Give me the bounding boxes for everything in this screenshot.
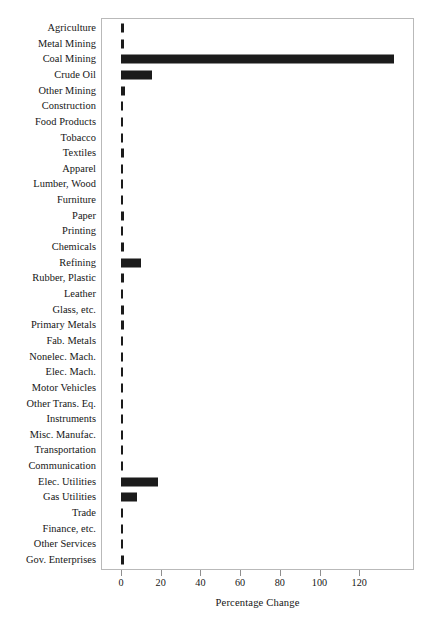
x-axis-tick-label: 0 <box>118 577 123 588</box>
category-label: Gas Utilities <box>0 492 96 502</box>
bar <box>121 383 123 392</box>
percentage-change-bar-chart: AgricultureMetal MiningCoal MiningCrude … <box>0 0 426 629</box>
category-label: Metal Mining <box>0 38 96 48</box>
bar <box>121 321 124 330</box>
bar <box>121 290 123 299</box>
bar <box>121 462 123 471</box>
bar <box>121 55 394 64</box>
x-axis-tick-label: 20 <box>156 577 166 588</box>
x-axis-tick <box>320 570 321 576</box>
category-label: Coal Mining <box>0 54 96 64</box>
category-label: Crude Oil <box>0 70 96 80</box>
category-label: Paper <box>0 211 96 221</box>
bar <box>121 196 123 205</box>
category-label: Gov. Enterprises <box>0 555 96 565</box>
category-label: Other Trans. Eq. <box>0 398 96 408</box>
x-axis-tick <box>121 570 122 576</box>
bar <box>121 336 123 345</box>
bar <box>121 180 123 189</box>
x-axis-tick <box>359 570 360 576</box>
category-label: Agriculture <box>0 23 96 33</box>
x-axis-tick <box>280 570 281 576</box>
bar <box>121 117 123 126</box>
x-axis-tick-label: 100 <box>312 577 327 588</box>
category-axis: AgricultureMetal MiningCoal MiningCrude … <box>0 18 96 570</box>
x-axis-tick-label: 120 <box>352 577 367 588</box>
bar <box>121 509 123 518</box>
category-label: Instruments <box>0 414 96 424</box>
x-axis-tick <box>161 570 162 576</box>
x-axis-title: Percentage Change <box>101 597 414 608</box>
bar <box>121 493 137 502</box>
category-label: Lumber, Wood <box>0 179 96 189</box>
bar <box>121 556 124 565</box>
bar <box>121 430 123 439</box>
x-axis-tick-label: 40 <box>195 577 205 588</box>
bar <box>121 70 152 79</box>
category-label: Chemicals <box>0 242 96 252</box>
bar <box>121 524 123 533</box>
x-axis-tick-label: 80 <box>275 577 285 588</box>
x-axis-tick <box>200 570 201 576</box>
bar <box>121 243 124 252</box>
bar <box>121 540 123 549</box>
category-label: Glass, etc. <box>0 304 96 314</box>
x-axis-tick <box>240 570 241 576</box>
bar <box>121 164 123 173</box>
category-label: Rubber, Plastic <box>0 273 96 283</box>
category-label: Food Products <box>0 117 96 127</box>
category-label: Motor Vehicles <box>0 383 96 393</box>
category-label: Printing <box>0 226 96 236</box>
bar <box>121 227 123 236</box>
category-label: Elec. Utilities <box>0 477 96 487</box>
bar <box>121 274 124 283</box>
bar <box>121 86 125 95</box>
x-axis: 020406080100120 <box>101 570 414 590</box>
bar <box>121 258 141 267</box>
bar <box>121 305 124 314</box>
category-label: Elec. Mach. <box>0 367 96 377</box>
bar <box>121 39 124 48</box>
category-label: Other Services <box>0 539 96 549</box>
category-label: Communication <box>0 461 96 471</box>
category-label: Nonelec. Mach. <box>0 351 96 361</box>
category-label: Transportation <box>0 445 96 455</box>
plot-area <box>101 18 414 570</box>
x-axis-tick-label: 60 <box>235 577 245 588</box>
category-label: Other Mining <box>0 85 96 95</box>
category-label: Construction <box>0 101 96 111</box>
bar <box>121 477 158 486</box>
bar <box>121 149 124 158</box>
bar <box>121 133 123 142</box>
category-label: Apparel <box>0 164 96 174</box>
category-label: Trade <box>0 508 96 518</box>
bar <box>121 24 124 33</box>
bar <box>121 211 124 220</box>
bar <box>121 446 123 455</box>
category-label: Misc. Manufac. <box>0 430 96 440</box>
category-label: Textiles <box>0 148 96 158</box>
category-label: Primary Metals <box>0 320 96 330</box>
category-label: Tobacco <box>0 132 96 142</box>
bar <box>121 368 123 377</box>
category-label: Fab. Metals <box>0 336 96 346</box>
bar <box>121 399 123 408</box>
bar <box>121 102 123 111</box>
category-label: Leather <box>0 289 96 299</box>
category-label: Finance, etc. <box>0 524 96 534</box>
category-label: Furniture <box>0 195 96 205</box>
category-label: Refining <box>0 258 96 268</box>
bar <box>121 415 123 424</box>
bar <box>121 352 123 361</box>
